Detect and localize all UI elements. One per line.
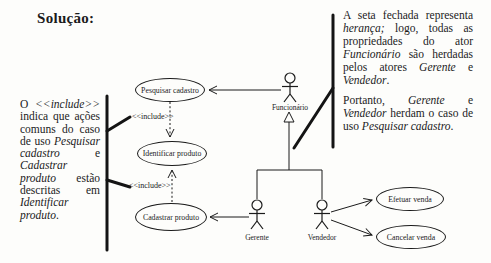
association-vendedor-efetuar	[331, 200, 372, 212]
left-callout-pointer-top	[107, 117, 130, 131]
right-callout-pointer	[294, 88, 333, 148]
left-callout-pointer-bottom	[107, 180, 130, 187]
usecase-cancelar-venda: Cancelar venda	[376, 225, 446, 249]
funcionario-actor-icon	[282, 73, 298, 102]
vendedor-actor-label: Vendedor	[292, 233, 352, 242]
generalization-triangle-icon	[284, 112, 294, 122]
usecase-identificar-produto-label: Identificar produto	[143, 149, 202, 158]
uml-diagram-lines	[0, 0, 491, 263]
usecase-pesquisar-cadastro: Pesquisar cadastro	[135, 78, 205, 102]
usecase-pesquisar-cadastro-label: Pesquisar cadastro	[141, 86, 199, 95]
gerente-actor-label: Gerente	[227, 233, 287, 242]
usecase-efetuar-venda-label: Efetuar venda	[388, 195, 432, 204]
scanned-textbook-page: Solução: O <<include>> indica que ações …	[0, 0, 491, 263]
include-stereotype-bottom: <<include>>	[129, 181, 171, 190]
usecase-identificar-produto: Identificar produto	[137, 141, 207, 166]
usecase-cancelar-venda-label: Cancelar venda	[387, 233, 435, 242]
usecase-cadastrar-produto-label: Cadastrar produto	[143, 213, 199, 222]
usecase-efetuar-venda: Efetuar venda	[376, 187, 444, 211]
include-stereotype-top: <<include>>	[132, 112, 174, 121]
usecase-cadastrar-produto: Cadastrar produto	[135, 203, 207, 231]
vendedor-actor-icon	[314, 200, 330, 229]
gerente-actor-icon	[249, 200, 265, 229]
funcionario-actor-label: Funcionário	[260, 103, 320, 112]
